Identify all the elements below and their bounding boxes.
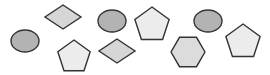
ellipse-shape <box>98 10 126 32</box>
shapes-canvas <box>0 0 270 75</box>
ellipse-shape <box>194 10 222 32</box>
ellipse-shape <box>11 30 39 52</box>
